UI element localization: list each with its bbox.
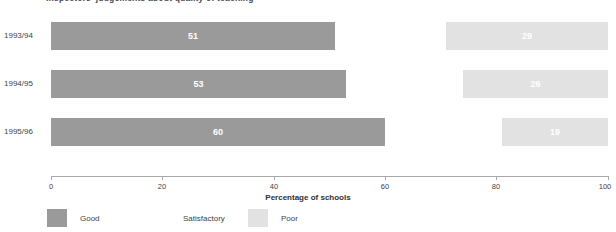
bar-value-poor-1994-95: 26: [463, 70, 608, 98]
chart-plot-area: 1993/94 51 29 1994/95 53 26 1995/96 60 1…: [0, 0, 616, 232]
x-axis-tick-label-80: 80: [492, 182, 500, 191]
bar-segment-good-1994-95: 53: [51, 70, 346, 98]
bar-value-good-1995-96: 60: [51, 118, 385, 146]
bar-value-good-1993-94: 51: [51, 22, 335, 50]
legend-item-satisfactory: Satisfactory: [150, 208, 225, 228]
bar-segment-satisfactory-1994-95: [346, 70, 463, 98]
x-axis-tick-label-100: 100: [599, 182, 612, 191]
legend-item-poor: Poor: [248, 208, 298, 228]
bar-segment-poor-1993-94: 29: [446, 22, 608, 50]
legend-swatch-satisfactory-icon: [150, 209, 170, 227]
legend-item-good: Good: [47, 208, 100, 228]
legend-swatch-poor-icon: [248, 209, 268, 227]
category-label-1995-96: 1995/96: [4, 127, 48, 136]
x-axis-tick-label-0: 0: [49, 182, 53, 191]
bar-segment-good-1995-96: 60: [51, 118, 385, 146]
x-axis-tick-label-40: 40: [270, 182, 278, 191]
bar-value-poor-1995-96: 19: [502, 118, 608, 146]
x-axis-line: [51, 176, 608, 177]
legend-label-poor: Poor: [281, 214, 298, 223]
bar-segment-poor-1995-96: 19: [502, 118, 608, 146]
category-label-1993-94: 1993/94: [4, 31, 48, 40]
legend-label-good: Good: [80, 214, 100, 223]
bar-segment-poor-1994-95: 26: [463, 70, 608, 98]
x-axis-tick-80: [496, 176, 497, 180]
bar-segment-satisfactory-1995-96: [385, 118, 502, 146]
x-axis-tick-label-60: 60: [381, 182, 389, 191]
bar-segment-good-1993-94: 51: [51, 22, 335, 50]
bar-value-good-1994-95: 53: [51, 70, 346, 98]
x-axis-title: Percentage of schools: [0, 193, 616, 202]
legend-swatch-good-icon: [47, 209, 67, 227]
category-label-1994-95: 1994/95: [4, 79, 48, 88]
x-axis-tick-0: [51, 176, 52, 180]
x-axis-tick-60: [385, 176, 386, 180]
x-axis-tick-100: [608, 176, 609, 180]
legend-label-satisfactory: Satisfactory: [183, 214, 225, 223]
x-axis-tick-20: [162, 176, 163, 180]
bar-segment-satisfactory-1993-94: [335, 22, 446, 50]
x-axis-tick-40: [274, 176, 275, 180]
x-axis-tick-label-20: 20: [158, 182, 166, 191]
bar-value-poor-1993-94: 29: [446, 22, 608, 50]
